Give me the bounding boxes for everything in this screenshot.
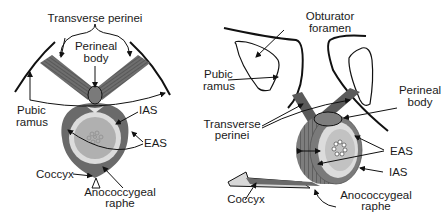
- label-perineal-body-2-r: body: [408, 96, 433, 108]
- label-perineal-body-2: body: [84, 52, 109, 64]
- left-panel: Transverse perinei Perineal body Pubic r…: [15, 12, 170, 209]
- label-pubic-ramus-1: Pubic: [17, 104, 46, 116]
- obturator-foramen-left: [235, 41, 279, 90]
- label-pubic-ramus-1-r: Pubic: [204, 68, 233, 80]
- label-perineal-body-1-r: Perineal: [399, 84, 441, 96]
- label-ias-r: IAS: [389, 166, 408, 178]
- label-perineal-body-1: Perineal: [75, 40, 117, 52]
- pubic-bone-left-outline: [224, 28, 303, 108]
- label-obturator-1: Obturator: [306, 10, 355, 22]
- right-panel: Obturator foramen Pubic ramus Perineal b…: [203, 10, 441, 212]
- label-transverse-perinei: Transverse perinei: [48, 12, 143, 24]
- label-eas-r: EAS: [390, 145, 413, 157]
- label-coccyx-r: Coccyx: [227, 193, 265, 205]
- label-ias: IAS: [139, 104, 158, 116]
- label-coccyx: Coccyx: [36, 168, 74, 180]
- label-pubic-ramus-2: ramus: [16, 116, 48, 128]
- label-anococcygeal-2-r: raphe: [361, 200, 390, 212]
- anal-lumen-r: [325, 129, 355, 171]
- label-obturator-2: foramen: [309, 22, 351, 34]
- label-anococcygeal-2: raphe: [105, 197, 134, 209]
- label-eas: EAS: [144, 137, 167, 149]
- anal-sphincter-diagram: Transverse perinei Perineal body Pubic r…: [0, 0, 448, 219]
- perineal-body: [88, 86, 102, 104]
- label-transverse-2: perinei: [215, 129, 250, 141]
- perineal-body-r: [314, 112, 342, 126]
- label-pubic-ramus-2-r: ramus: [203, 80, 235, 92]
